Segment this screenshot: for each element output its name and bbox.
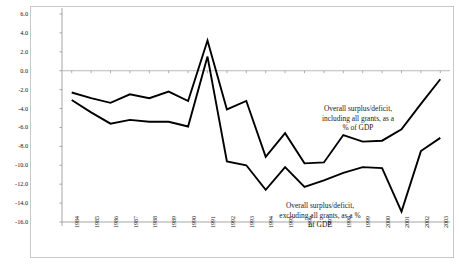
y-tick-label: 2.0 — [2, 48, 28, 55]
x-tick-label: 1991 — [210, 216, 216, 228]
y-tick-label: -12.0 — [2, 180, 28, 187]
annotation-including-grants: Overall surplus/deficit, including all g… — [296, 104, 420, 133]
y-tick-label: -4.0 — [2, 105, 28, 112]
y-tick-label: 0.0 — [2, 67, 28, 74]
y-tick-label: -14.0 — [2, 199, 28, 206]
y-tick-label: -16.0 — [2, 218, 28, 225]
annotation-excluding-grants: Overall surplus/deficit, excluding all g… — [258, 201, 382, 230]
x-tick-label: 1989 — [171, 216, 177, 228]
x-tick-label: 2001 — [404, 216, 410, 228]
x-tick-label: 2003 — [443, 216, 449, 228]
y-tick-label: -2.0 — [2, 86, 28, 93]
chart-container: 6.04.02.00.0-2.0-4.0-6.0-8.0-10.0-12.0-1… — [0, 0, 459, 266]
y-tick-label: 4.0 — [2, 29, 28, 36]
y-tick-label: -6.0 — [2, 123, 28, 130]
x-tick-label: 1985 — [94, 216, 100, 228]
y-tick-label: 6.0 — [2, 10, 28, 17]
series-line-excluding-grants — [72, 57, 441, 212]
x-tick-label: 1992 — [230, 216, 236, 228]
x-tick-label: 2000 — [385, 216, 391, 228]
x-tick-label: 1990 — [191, 216, 197, 228]
x-tick-label: 1984 — [74, 216, 80, 228]
x-tick-label: 1993 — [249, 216, 255, 228]
x-tick-label: 2002 — [424, 216, 430, 228]
y-tick-label: -10.0 — [2, 161, 28, 168]
x-tick-label: 1988 — [152, 216, 158, 228]
x-tick-label: 1986 — [113, 216, 119, 228]
x-tick-label: 1987 — [133, 216, 139, 228]
y-tick-label: -8.0 — [2, 142, 28, 149]
series-line-including-grants — [72, 40, 441, 163]
